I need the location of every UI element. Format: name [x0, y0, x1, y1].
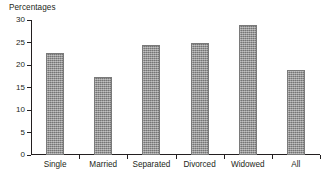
bar-slot: [79, 20, 127, 155]
bar[interactable]: [287, 70, 305, 156]
y-axis-label: 10: [0, 106, 25, 114]
y-axis-label-text: 20: [3, 61, 25, 69]
bar-slot: [127, 20, 175, 155]
bar[interactable]: [94, 77, 112, 155]
bar-slot: [176, 20, 224, 155]
y-axis-label-text: 25: [3, 39, 25, 47]
bar[interactable]: [239, 25, 257, 156]
y-axis-label: 5: [0, 129, 25, 137]
y-axis-label-text: 30: [3, 16, 25, 24]
x-axis-label-all: All: [266, 159, 326, 170]
y-axis-label: 25: [0, 39, 25, 47]
y-axis-label-text: 0: [3, 151, 25, 159]
bar-slot: [224, 20, 272, 155]
y-axis-label: 0: [0, 151, 25, 159]
y-axis-label: 20: [0, 61, 25, 69]
plot-area: [31, 20, 320, 155]
y-axis-label-text: 10: [3, 106, 25, 114]
bar[interactable]: [142, 45, 160, 155]
bar[interactable]: [46, 53, 64, 155]
bar-slot: [272, 20, 320, 155]
y-axis-label: 30: [0, 16, 25, 24]
bar-slot: [31, 20, 79, 155]
y-axis-label-text: 5: [3, 129, 25, 137]
y-axis-label-text: 15: [3, 84, 25, 92]
y-axis-label: 15: [0, 84, 25, 92]
chart-title: Percentages: [9, 2, 56, 13]
bar[interactable]: [191, 43, 209, 155]
bar-chart: Percentages 051015202530 SingleMarriedSe…: [0, 0, 326, 173]
